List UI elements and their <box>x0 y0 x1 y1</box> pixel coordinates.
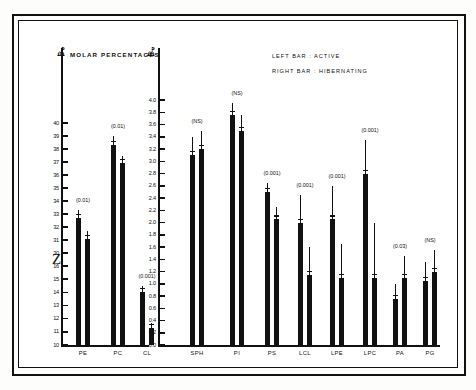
left-axis-tick <box>63 161 68 163</box>
right-axis-tick-label: 2.6 <box>138 182 156 188</box>
bar-hibernating <box>339 278 344 345</box>
right-axis-tick-label: 3.6 <box>138 121 156 127</box>
left-axis-tick-label: 40 <box>41 120 59 126</box>
error-bar-cap-active <box>76 214 81 215</box>
bar-hibernating <box>307 275 312 345</box>
right-axis-tick <box>160 259 165 261</box>
left-axis-tick <box>63 305 68 307</box>
right-axis-tick-label: 2.2 <box>138 207 156 213</box>
left-axis-tick-label: 13 <box>41 302 59 308</box>
left-axis-tick-label: 33 <box>41 211 59 217</box>
right-axis-tick <box>160 99 165 101</box>
left-axis-tick-label: 36 <box>41 172 59 178</box>
left-axis-tick <box>63 344 68 346</box>
bar-hibernating <box>402 278 407 345</box>
left-axis-tick-label: 37 <box>41 159 59 165</box>
pvalue-annotation: (0.001) <box>263 170 280 176</box>
error-bar-cap-hibernating <box>432 268 437 269</box>
error-bar-cap-active <box>298 219 303 220</box>
left-axis-tick-label: 10 <box>41 342 59 348</box>
error-bar-cap-hibernating <box>307 271 312 272</box>
right-axis-tick-label: 1.0 <box>138 280 156 286</box>
right-axis-tick <box>160 234 165 236</box>
right-axis-tick <box>160 136 165 138</box>
error-bar-cap-hibernating <box>149 324 154 325</box>
error-bar-hibernating <box>404 256 405 285</box>
bar-hibernating <box>372 278 377 345</box>
bar-hibernating <box>120 163 125 345</box>
bar-active <box>76 218 81 345</box>
left-axis-tick <box>63 226 68 228</box>
left-axis-tick <box>63 135 68 137</box>
right-axis-tick <box>160 124 165 126</box>
bar-hibernating <box>199 149 204 345</box>
left-axis-tick-label: 34 <box>41 198 59 204</box>
right-axis-tick-label: 2.0 <box>138 219 156 225</box>
bar-active <box>298 223 303 346</box>
right-axis-tick-label: 3.4 <box>138 133 156 139</box>
error-bar-hibernating <box>341 244 342 286</box>
left-axis-tick <box>63 174 68 176</box>
left-axis-tick-label: 32 <box>41 224 59 230</box>
bar-active <box>363 174 368 346</box>
left-axis-tick-label: 14 <box>41 289 59 295</box>
left-axis-tick-label: 38 <box>41 146 59 152</box>
right-axis-tick <box>160 161 165 163</box>
right-axis-tick <box>160 173 165 175</box>
error-bar-active <box>267 183 268 200</box>
bar-hibernating <box>432 272 437 346</box>
error-bar-hibernating <box>276 207 277 227</box>
left-axis-tick <box>63 331 68 333</box>
left-axis-tick <box>63 148 68 150</box>
right-axis-tick-label: 3.8 <box>138 109 156 115</box>
pvalue-annotation: (0.001) <box>296 182 313 188</box>
error-bar-cap-hibernating <box>120 159 125 160</box>
right-axis-tick <box>160 197 165 199</box>
error-bar-hibernating <box>309 247 310 283</box>
category-label: SPH <box>190 350 203 356</box>
error-bar-hibernating <box>374 223 375 286</box>
left-axis-spine <box>61 48 63 345</box>
pvalue-annotation: (0.01) <box>76 197 90 203</box>
legend-right-bar: RIGHT BAR : HIBERNATING <box>272 68 368 74</box>
category-label: PG <box>425 350 434 356</box>
right-axis-tick <box>160 283 165 285</box>
error-bar-cap-active <box>363 170 368 171</box>
right-axis-tick <box>160 295 165 297</box>
right-axis-tick <box>160 271 165 273</box>
error-bar-hibernating <box>201 131 202 157</box>
error-bar-cap-active <box>423 277 428 278</box>
left-arrow-icon: Ⰼ <box>57 47 65 58</box>
error-bar-cap-active <box>230 111 235 112</box>
right-axis-tick-label: 1.8 <box>138 231 156 237</box>
pvalue-annotation: (0.001) <box>138 273 155 279</box>
error-bar-cap-active <box>140 288 145 289</box>
error-bar-cap-hibernating <box>339 274 344 275</box>
error-bar-active <box>425 262 426 288</box>
bar-active <box>423 281 428 345</box>
category-label: LPC <box>364 350 376 356</box>
error-bar-cap-hibernating <box>85 235 90 236</box>
figure-page: 403938373635343332313016151413121110Z4.0… <box>0 0 476 390</box>
left-axis-tick <box>63 200 68 202</box>
bar-hibernating <box>239 131 244 345</box>
pvalue-annotation: (0.01) <box>111 123 125 129</box>
category-label: PI <box>234 350 240 356</box>
category-label: PS <box>268 350 277 356</box>
right-axis-tick <box>160 148 165 150</box>
category-label: PE <box>79 350 88 356</box>
error-bar-cap-hibernating <box>402 274 407 275</box>
error-bar-hibernating <box>434 250 435 279</box>
error-bar-active <box>78 210 79 226</box>
left-axis-tick <box>63 265 68 267</box>
bar-hibernating <box>85 239 90 345</box>
left-axis-tick-label: 31 <box>41 237 59 243</box>
left-axis-tick <box>63 187 68 189</box>
right-axis-tick-label: 3.2 <box>138 146 156 152</box>
bar-active <box>265 192 270 345</box>
right-axis-tick <box>160 308 165 310</box>
right-panel-baseline <box>158 345 440 347</box>
error-bar-cap-hibernating <box>239 127 244 128</box>
pvalue-annotation: (NS) <box>191 118 202 124</box>
right-axis-tick-label: 4.0 <box>138 97 156 103</box>
